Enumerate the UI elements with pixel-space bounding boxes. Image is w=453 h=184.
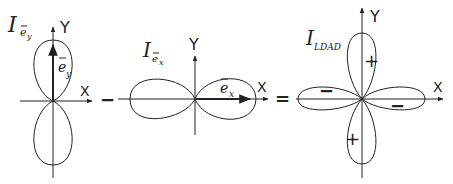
panel-ldad-title-sub: LDAD bbox=[313, 42, 341, 52]
sign-right: − bbox=[390, 95, 405, 116]
x-axis-label: X bbox=[433, 79, 443, 95]
vector-ey-sub: y bbox=[65, 69, 72, 79]
sign-top: + bbox=[364, 50, 379, 71]
ldad-diagram: I e y Y X e y − I e x Y X e x bbox=[0, 0, 453, 184]
panel-ldad: I LDAD Y X + + − − bbox=[296, 7, 443, 178]
panel-ex-title-sub: e bbox=[152, 53, 158, 64]
panel-ex-title-main: I bbox=[142, 38, 152, 62]
x-axis-label: X bbox=[257, 79, 267, 95]
vector-ex-sub: x bbox=[229, 89, 234, 99]
panel-ey-title-main: I bbox=[7, 12, 18, 37]
operator-minus: − bbox=[100, 89, 115, 110]
operator-equals: = bbox=[275, 88, 290, 109]
y-axis-label: Y bbox=[59, 18, 70, 37]
panel-ey-title-subsub: y bbox=[26, 32, 32, 41]
y-axis-label: Y bbox=[188, 35, 199, 54]
vector-ex-label: e bbox=[220, 80, 228, 96]
sign-bottom: + bbox=[345, 128, 360, 149]
panel-ey-title-sub: e bbox=[20, 26, 27, 39]
sign-left: − bbox=[319, 80, 334, 101]
panel-ey: I e y Y X e y bbox=[7, 12, 92, 178]
panel-ex-title-subsub: x bbox=[159, 58, 164, 67]
x-axis-label: X bbox=[80, 83, 90, 99]
y-axis-label: Y bbox=[369, 7, 380, 26]
panel-ex: I e x Y X e x bbox=[118, 35, 268, 135]
